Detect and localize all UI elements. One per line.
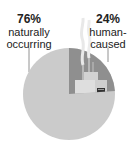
label-human-caused: 24% human- caused [86,13,130,50]
label-text: caused [86,38,130,50]
label-text: naturally [0,26,58,38]
label-pct: 76% [0,13,58,26]
smoke-plume-icon [81,18,83,65]
label-text: human- [86,26,130,38]
label-naturally-occurring: 76% naturally occurring [0,13,58,50]
label-pct: 24% [86,13,130,26]
label-text: occurring [0,38,58,50]
